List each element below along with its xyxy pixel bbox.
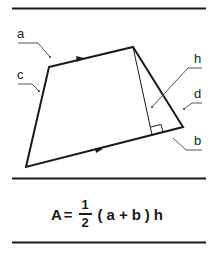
label-h: h: [194, 51, 201, 66]
formula-h: h: [154, 206, 163, 223]
leader-c: [18, 84, 39, 91]
formula-fraction: 1 2: [79, 198, 92, 230]
label-c: c: [17, 67, 24, 82]
formula-a: a: [107, 206, 115, 223]
leader-d: [184, 103, 202, 109]
parallel-arrow-b: [95, 148, 103, 153]
fraction-denominator: 2: [81, 216, 88, 230]
formula-plus: +: [119, 206, 128, 223]
right-angle-marker: [151, 125, 164, 133]
formula-b: b: [132, 206, 141, 223]
label-b: b: [194, 133, 201, 148]
area-formula: A = 1 2 ( a + b ) h: [0, 196, 216, 232]
trapezoid-shape: [26, 47, 183, 167]
formula-equals: =: [64, 206, 73, 223]
leader-a: [18, 43, 50, 57]
label-d: d: [194, 86, 201, 101]
fraction-numerator: 1: [81, 198, 88, 212]
height-line: [133, 47, 152, 135]
label-a: a: [17, 26, 25, 41]
formula-lhs: A: [51, 206, 62, 223]
formula-open-paren: (: [98, 206, 103, 223]
formula-close-paren: ): [145, 206, 150, 223]
